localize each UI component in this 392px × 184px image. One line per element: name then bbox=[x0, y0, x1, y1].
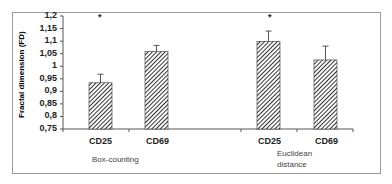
category-label-cd25-euclid: CD25 bbox=[258, 136, 281, 146]
bar-cd69 bbox=[314, 60, 337, 129]
y-tick-label: 0,85 bbox=[17, 98, 57, 108]
group-label-euclidean-line1: Euclidean bbox=[277, 148, 312, 159]
category-label-cd69-euclid: CD69 bbox=[315, 136, 338, 146]
y-tick-label: 1 bbox=[17, 60, 57, 70]
y-tick-label: 1,1 bbox=[17, 35, 57, 45]
y-tick-label: 1,05 bbox=[17, 48, 57, 58]
category-label-cd69-box: CD69 bbox=[146, 136, 169, 146]
group-label-euclidean-line2: distance bbox=[277, 159, 307, 170]
group-label-box-counting: Box-counting bbox=[92, 154, 139, 165]
bar-cd25 bbox=[257, 41, 280, 129]
bar-chart bbox=[0, 0, 392, 184]
bar-cd69 bbox=[145, 52, 168, 129]
y-tick-label: 1,2 bbox=[17, 10, 57, 20]
y-tick-label: 0,9 bbox=[17, 85, 57, 95]
y-tick-label: 0,8 bbox=[17, 110, 57, 120]
significance-marker: * bbox=[268, 12, 272, 22]
y-tick-label: 0,75 bbox=[17, 123, 57, 133]
y-tick-label: 1,15 bbox=[17, 23, 57, 33]
y-tick-label: 0,95 bbox=[17, 73, 57, 83]
category-label-cd25-box: CD25 bbox=[89, 136, 112, 146]
significance-marker: * bbox=[98, 12, 102, 22]
bar-cd25 bbox=[89, 83, 112, 129]
